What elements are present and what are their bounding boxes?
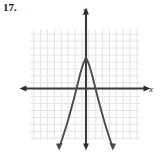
figure-container: 17. x y [0, 0, 161, 154]
curve-right-arrowhead [109, 143, 116, 151]
y-axis-bottom-arrowhead [83, 144, 89, 151]
x-axis-label: x [148, 84, 153, 94]
x-axis-left-arrowhead [20, 86, 27, 92]
curve-left-arrowhead [56, 143, 63, 151]
y-axis-label: y [82, 5, 87, 15]
graph-plot: x y [0, 0, 161, 154]
